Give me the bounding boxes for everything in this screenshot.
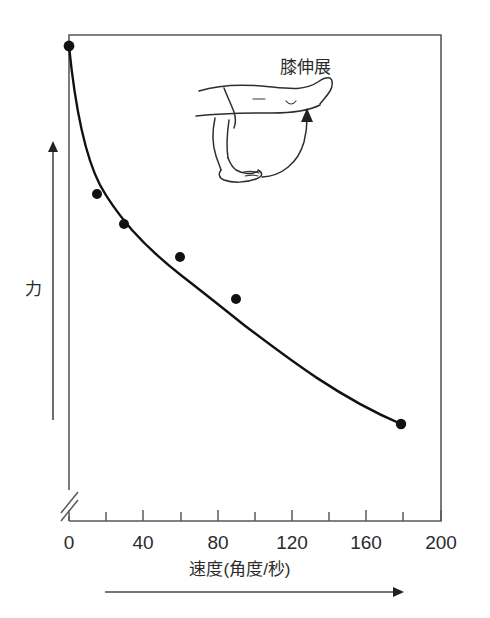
x-axis-tick-labels: 0 40 80 120 160 200 [64, 532, 457, 553]
exercise-annotation-label: 膝伸展 [280, 58, 331, 77]
arrow-right-icon [105, 587, 404, 597]
x-tick-label-200: 200 [425, 532, 457, 553]
data-curve-knee-extension [69, 46, 401, 424]
x-axis-title: 速度(角度/秒) [189, 560, 290, 579]
data-points [64, 41, 407, 430]
x-tick-label-160: 160 [350, 532, 382, 553]
leg-knee-extension-illustration [196, 78, 332, 182]
data-point-180 [396, 419, 406, 429]
data-point-90 [231, 294, 241, 304]
arrow-up-icon [48, 141, 58, 420]
x-tick-label-40: 40 [132, 532, 153, 553]
data-point-0 [64, 41, 75, 52]
x-tick-label-0: 0 [64, 532, 75, 553]
data-point-15 [92, 189, 102, 199]
data-point-60 [175, 252, 185, 262]
plot-frame [69, 35, 441, 521]
x-axis-minor-ticks [106, 512, 403, 521]
y-axis-title: 力 [25, 280, 42, 299]
x-tick-label-120: 120 [276, 532, 308, 553]
chart-canvas: 0 40 80 120 160 200 速度(角度/秒) 力 [0, 0, 490, 618]
frame-border [69, 35, 441, 521]
force-velocity-chart-figure: 0 40 80 120 160 200 速度(角度/秒) 力 [0, 0, 490, 618]
data-point-30 [119, 219, 129, 229]
x-tick-label-80: 80 [207, 532, 228, 553]
